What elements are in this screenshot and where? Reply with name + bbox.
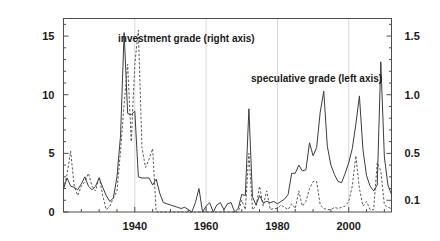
y-left-tick-label-0: 0	[48, 206, 54, 218]
plot-frame	[64, 19, 392, 213]
annotation-speculative-grade: speculative grade (left axis)	[251, 73, 382, 84]
series-line-investment-grade	[64, 30, 392, 212]
chart-container: 1940196019802000 051015 0.10.51.01.5 inv…	[0, 0, 440, 241]
annotation-investment-grade: investment grade (right axis)	[118, 33, 255, 44]
series-line-speculative-grade	[64, 33, 392, 212]
y-right-tick-label-1-5: 1.5	[405, 30, 420, 42]
y-axis-left-tick-labels: 051015	[42, 30, 54, 218]
x-axis-tick-labels: 1940196019802000	[123, 220, 361, 232]
default-rate-line-chart: 1940196019802000 051015 0.10.51.01.5 inv…	[0, 0, 440, 241]
x-tick-label-1940: 1940	[123, 220, 147, 232]
y-left-tick-label-5: 5	[48, 147, 54, 159]
series-layer	[64, 30, 392, 212]
y-axis-right-tick-labels: 0.10.51.01.5	[405, 30, 420, 206]
plot-frame-rect	[64, 19, 392, 213]
series-annotations: investment grade (right axis)speculative…	[118, 33, 382, 84]
y-left-tick-label-10: 10	[42, 89, 54, 101]
x-tick-label-2000: 2000	[336, 220, 360, 232]
y-axis-right-ticks	[387, 24, 392, 200]
y-right-tick-label-0-5: 0.5	[405, 147, 420, 159]
x-tick-label-1980: 1980	[265, 220, 289, 232]
y-left-tick-label-15: 15	[42, 30, 54, 42]
x-tick-label-1960: 1960	[194, 220, 218, 232]
y-right-tick-label-0-1: 0.1	[405, 194, 420, 206]
y-right-tick-label-1-0: 1.0	[405, 89, 420, 101]
